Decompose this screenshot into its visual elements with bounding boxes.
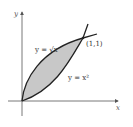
intersection-point xyxy=(82,37,84,39)
sqrt-curve-label: y = √x xyxy=(34,46,58,54)
diagram-canvas: y x y = √x y = x² (1,1) xyxy=(0,0,133,127)
square-curve-label: y = x² xyxy=(67,74,89,82)
y-axis-label: y xyxy=(13,10,19,18)
point-label: (1,1) xyxy=(86,40,103,48)
x-axis-label: x xyxy=(116,104,120,112)
